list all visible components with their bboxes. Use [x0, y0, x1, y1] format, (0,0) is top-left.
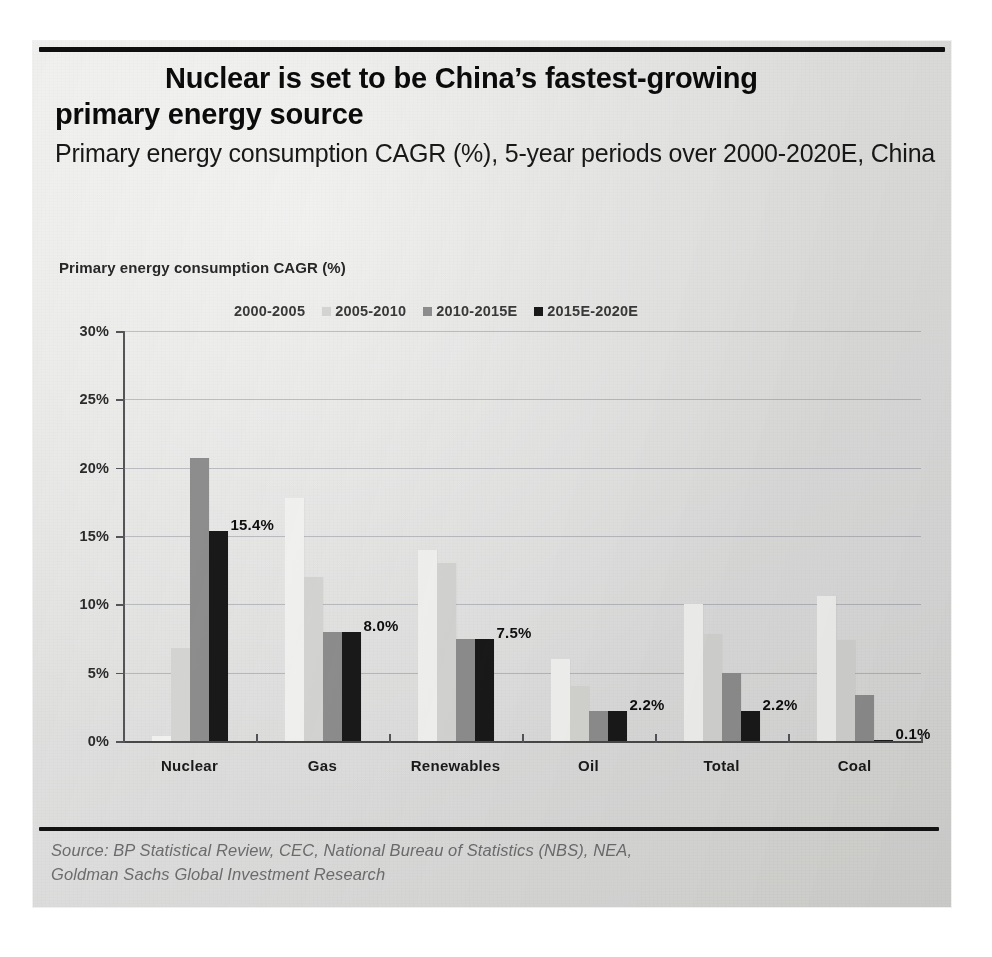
y-axis-tick-label: 0% — [88, 733, 109, 749]
chart-axis-caption: Primary energy consumption CAGR (%) — [59, 259, 346, 276]
page-title: Nuclear is set to be China’s fastest-gro… — [55, 61, 935, 133]
page-subtitle: Primary energy consumption CAGR (%), 5-y… — [55, 137, 945, 170]
bar-group-gas: 8.0% — [256, 331, 389, 741]
bar[interactable] — [456, 639, 475, 742]
legend-item-3[interactable]: 2010-2015E — [423, 303, 517, 319]
x-axis-tick-mark — [788, 734, 790, 743]
bar[interactable] — [589, 711, 608, 741]
x-axis-label-oil: Oil — [578, 757, 599, 774]
bar[interactable] — [817, 596, 836, 741]
bars-canvas: 15.4%8.0%7.5%2.2%2.2%0.1% — [123, 331, 921, 741]
legend-swatch-icon — [534, 307, 543, 316]
bar[interactable] — [418, 550, 437, 741]
legend-label: 2015E-2020E — [547, 303, 638, 319]
bar[interactable] — [836, 640, 855, 741]
bar-group-nuclear: 15.4% — [123, 331, 256, 741]
bar[interactable] — [285, 498, 304, 741]
scanned-page: Nuclear is set to be China’s fastest-gro… — [33, 41, 951, 907]
x-axis-tick-mark — [123, 734, 125, 743]
bar[interactable] — [152, 736, 171, 741]
bar[interactable]: 15.4% — [209, 531, 228, 741]
bar-group-total: 2.2% — [655, 331, 788, 741]
bar[interactable]: 2.2% — [608, 711, 627, 741]
x-axis-label-coal: Coal — [838, 757, 872, 774]
bar[interactable] — [551, 659, 570, 741]
bar-group-coal: 0.1% — [788, 331, 921, 741]
bar[interactable] — [304, 577, 323, 741]
chart-plot-area: 0%5%10%15%20%25%30% 15.4%8.0%7.5%2.2%2.2… — [59, 331, 929, 801]
bar[interactable] — [171, 648, 190, 741]
y-axis-tick-label: 10% — [79, 596, 109, 612]
page-title-line-2: primary energy source — [55, 97, 364, 133]
x-axis-tick-mark — [921, 734, 923, 743]
x-axis-label-total: Total — [703, 757, 739, 774]
top-divider-rule — [39, 47, 945, 52]
x-axis-tick-mark — [256, 734, 258, 743]
legend-item-2[interactable]: 2005-2010 — [322, 303, 406, 319]
bar[interactable] — [570, 686, 589, 741]
bar-group-renewables: 7.5% — [389, 331, 522, 741]
bar[interactable]: 0.1% — [874, 740, 893, 741]
legend-swatch-icon — [423, 307, 432, 316]
y-axis-tick-label: 30% — [79, 323, 109, 339]
x-axis-label-renewables: Renewables — [411, 757, 501, 774]
page-title-line-1: Nuclear is set to be China’s fastest-gro… — [165, 62, 758, 94]
y-axis-tick-label: 25% — [79, 391, 109, 407]
legend-item-4[interactable]: 2015E-2020E — [534, 303, 638, 319]
bar[interactable]: 8.0% — [342, 632, 361, 741]
x-axis-label-nuclear: Nuclear — [161, 757, 218, 774]
x-axis-tick-mark — [389, 734, 391, 743]
source-note: Source: BP Statistical Review, CEC, Nati… — [51, 839, 931, 887]
legend-label: 2005-2010 — [335, 303, 406, 319]
source-line-1: Source: BP Statistical Review, CEC, Nati… — [51, 839, 931, 863]
bottom-divider-rule — [39, 827, 939, 831]
legend-label: 2010-2015E — [436, 303, 517, 319]
legend-swatch-icon — [221, 307, 230, 316]
chart-legend: 2000-20052005-20102010-2015E2015E-2020E — [221, 303, 638, 319]
x-axis-labels: NuclearGasRenewablesOilTotalCoal — [123, 749, 921, 783]
legend-label: 2000-2005 — [234, 303, 305, 319]
bar[interactable] — [722, 673, 741, 741]
bar-value-label: 0.1% — [896, 725, 931, 742]
bar[interactable] — [684, 604, 703, 741]
bar-group-oil: 2.2% — [522, 331, 655, 741]
source-line-2: Goldman Sachs Global Investment Research — [51, 863, 931, 887]
bar[interactable] — [190, 458, 209, 741]
x-axis-tick-mark — [522, 734, 524, 743]
bar[interactable]: 2.2% — [741, 711, 760, 741]
bar[interactable] — [437, 563, 456, 741]
y-axis-tick-label: 20% — [79, 460, 109, 476]
y-axis-tick-label: 15% — [79, 528, 109, 544]
bar[interactable] — [323, 632, 342, 741]
legend-item-1[interactable]: 2000-2005 — [221, 303, 305, 319]
y-axis: 0%5%10%15%20%25%30% — [59, 331, 115, 741]
x-axis-tick-mark — [655, 734, 657, 743]
x-axis-label-gas: Gas — [308, 757, 337, 774]
bar[interactable] — [703, 634, 722, 741]
bar[interactable] — [855, 695, 874, 741]
bar[interactable]: 7.5% — [475, 639, 494, 742]
legend-swatch-icon — [322, 307, 331, 316]
y-axis-tick-label: 5% — [88, 665, 109, 681]
